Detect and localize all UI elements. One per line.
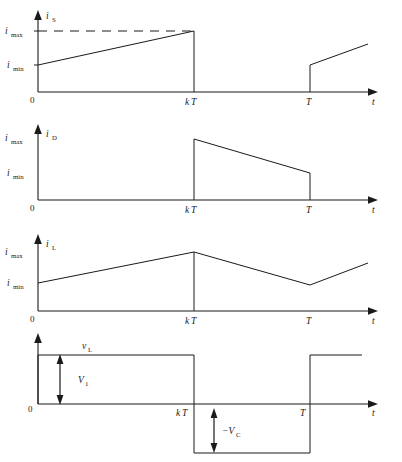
axis-label-is-sub: S bbox=[52, 16, 56, 23]
ytick-label-imax-sub: max bbox=[11, 31, 23, 38]
ytick-label-imax-base: i bbox=[5, 247, 8, 257]
y-axis-arrowhead bbox=[34, 124, 42, 134]
waveform-id-decay bbox=[194, 139, 310, 200]
waveform-is-first-ramp bbox=[38, 31, 194, 92]
xtick-label-zero: 0 bbox=[30, 314, 35, 324]
xtick-label-kT-T: T bbox=[191, 97, 197, 107]
axis-label-id-sub: D bbox=[52, 134, 57, 141]
xtick-label-T: T bbox=[300, 408, 306, 418]
xtick-label-zero: 0 bbox=[30, 203, 35, 213]
vc-arrowhead-bottom bbox=[211, 443, 218, 453]
axis-label-vl-base: v bbox=[82, 341, 87, 351]
y-axis-arrowhead bbox=[34, 10, 42, 20]
ytick-label-imax-sub: max bbox=[11, 252, 23, 259]
xtick-label-kT-T: T bbox=[182, 408, 188, 418]
axis-label-is-base: i bbox=[46, 11, 49, 21]
axis-label-il-sub: L bbox=[52, 244, 56, 251]
xtick-label-kT-T: T bbox=[191, 316, 197, 326]
xaxis-title-t: t bbox=[372, 316, 375, 326]
xtick-label-kT-k: k bbox=[176, 408, 181, 418]
annotation-vc-sub: C bbox=[236, 431, 241, 438]
panel-diode-current: i D i max i min 0 k T T t bbox=[0, 112, 402, 220]
ytick-label-imin-base: i bbox=[7, 168, 10, 178]
annotation-v1-base: V bbox=[78, 375, 85, 385]
ytick-label-imax-sub: max bbox=[11, 138, 23, 145]
ytick-label-imax-base: i bbox=[5, 133, 8, 143]
xaxis-title-t: t bbox=[372, 408, 375, 418]
vc-arrowhead-top bbox=[211, 408, 218, 418]
xtick-label-T: T bbox=[306, 316, 312, 326]
xtick-label-kT-k: k bbox=[185, 205, 190, 215]
xtick-label-kT-k: k bbox=[185, 97, 190, 107]
annotation-v1-sub: 1 bbox=[85, 380, 88, 387]
xaxis-title-t: t bbox=[372, 97, 375, 107]
ytick-label-imin-sub: min bbox=[13, 283, 24, 290]
y-axis-arrowhead bbox=[34, 234, 42, 244]
x-axis-arrowhead bbox=[368, 400, 378, 408]
xtick-label-T: T bbox=[306, 97, 312, 107]
axis-label-id-base: i bbox=[46, 129, 49, 139]
ytick-label-imin-base: i bbox=[7, 278, 10, 288]
axis-label-vl-sub: L bbox=[88, 346, 92, 353]
xtick-label-zero: 0 bbox=[30, 95, 35, 105]
xtick-label-kT-T: T bbox=[191, 205, 197, 215]
ytick-label-imin-sub: min bbox=[13, 65, 24, 72]
y-axis-arrowhead bbox=[34, 333, 42, 343]
waveform-figure: i S i max i min 0 k T T t i D i max i mi… bbox=[0, 0, 402, 462]
x-axis-arrowhead bbox=[368, 307, 378, 315]
xaxis-title-t: t bbox=[372, 205, 375, 215]
xtick-label-zero: 0 bbox=[28, 404, 33, 414]
panel-inductor-voltage: v L V 1 −V C 0 k T T t bbox=[0, 330, 402, 462]
xtick-label-kT-k: k bbox=[185, 316, 190, 326]
x-axis-arrowhead bbox=[368, 88, 378, 96]
panel-switch-current: i S i max i min 0 k T T t bbox=[0, 0, 402, 112]
xtick-label-T: T bbox=[306, 205, 312, 215]
x-axis-arrowhead bbox=[368, 196, 378, 204]
waveform-il-triangle bbox=[38, 252, 368, 285]
waveform-is-second-ramp bbox=[310, 44, 368, 92]
ytick-label-imin-base: i bbox=[7, 60, 10, 70]
axis-label-il-base: i bbox=[46, 239, 49, 249]
ytick-label-imax-base: i bbox=[5, 26, 8, 36]
panel-inductor-current: i L i max i min 0 k T T t bbox=[0, 220, 402, 330]
annotation-vc-base: −V bbox=[222, 426, 235, 436]
ytick-label-imin-sub: min bbox=[13, 173, 24, 180]
